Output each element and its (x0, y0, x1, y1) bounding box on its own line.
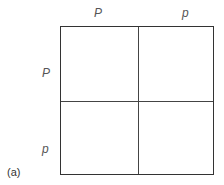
cell-top-left (61, 27, 138, 101)
column-header-2: p (182, 7, 189, 19)
cell-bottom-right (139, 102, 213, 174)
cell-bottom-left (61, 102, 138, 174)
cell-top-right (139, 27, 213, 101)
punnett-grid (60, 26, 214, 175)
row-header-2: p (42, 143, 49, 155)
row-header-1: P (42, 67, 50, 79)
column-header-1: P (94, 7, 102, 19)
figure-caption: (a) (7, 167, 20, 178)
